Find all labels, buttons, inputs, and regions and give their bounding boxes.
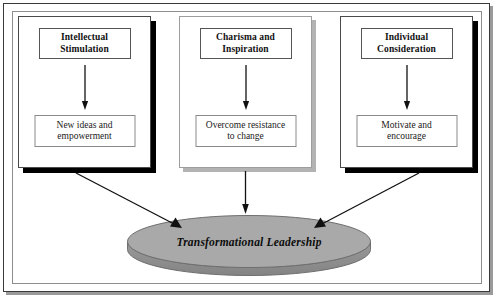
pillar-outcome-box: Overcome resistanceto change	[195, 115, 296, 147]
pillar-title-box: IntellectualStimulation	[39, 28, 131, 59]
pillar-title-text: IntellectualStimulation	[60, 32, 109, 55]
pillar-outcome-line2: encourage	[387, 131, 426, 141]
pillar-title-line2: Consideration	[377, 44, 436, 54]
pillar-outcome-text: Overcome resistanceto change	[206, 120, 285, 143]
pillar-title-line2: Inspiration	[222, 44, 269, 54]
pillar-title-text: IndividualConsideration	[377, 32, 436, 55]
pillar-outcome-line1: Motivate and	[381, 120, 431, 130]
inner-arrow-icon	[80, 65, 90, 111]
pillar-outcome-box: New ideas andempowerment	[34, 115, 135, 147]
pillar-outcome-line1: New ideas and	[57, 120, 113, 130]
pillar-title-line2: Stimulation	[60, 44, 109, 54]
pillar-panel-charisma-and-inspiration: Charisma andInspiration Overcome resista…	[179, 16, 312, 168]
pillar-outcome-text: Motivate andencourage	[381, 120, 431, 143]
inner-arrow-icon	[241, 65, 251, 111]
pillar-panel-individual-consideration: IndividualConsideration Motivate andenco…	[340, 16, 473, 168]
transformational-leadership-diagram: IntellectualStimulation New ideas andemp…	[0, 0, 498, 302]
pillar-title-box: Charisma andInspiration	[200, 28, 292, 59]
pillar-title-line1: Charisma and	[216, 32, 275, 42]
pillar-outcome-line2: to change	[227, 131, 264, 141]
pillar-outcome-text: New ideas andempowerment	[57, 120, 113, 143]
transformational-leadership-label: Transformational Leadership	[126, 214, 372, 269]
pillar-panel-intellectual-stimulation: IntellectualStimulation New ideas andemp…	[18, 16, 151, 168]
pillar-outcome-box: Motivate andencourage	[356, 115, 457, 147]
pillar-outcome-line2: empowerment	[57, 131, 111, 141]
pillar-title-line1: Individual	[385, 32, 428, 42]
panel-body: IndividualConsideration Motivate andenco…	[340, 16, 473, 168]
pillar-title-text: Charisma andInspiration	[216, 32, 275, 55]
pillar-title-line1: Intellectual	[61, 32, 108, 42]
pillar-outcome-line1: Overcome resistance	[206, 120, 285, 130]
pillar-title-box: IndividualConsideration	[361, 28, 453, 59]
panel-body: Charisma andInspiration Overcome resista…	[179, 16, 312, 168]
inner-arrow-icon	[402, 65, 412, 111]
panel-body: IntellectualStimulation New ideas andemp…	[18, 16, 151, 168]
